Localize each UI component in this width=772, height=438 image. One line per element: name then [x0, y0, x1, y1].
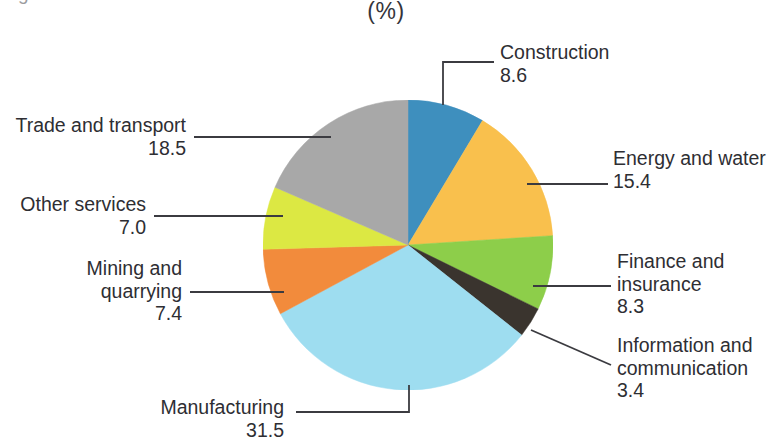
pie-label-trade: Trade and transport 18.5: [15, 114, 186, 159]
pie-label-information-line2: communication: [617, 357, 753, 380]
pie-label-other-services-name: Other services: [20, 193, 146, 215]
pie-label-energy-value: 15.4: [613, 170, 766, 193]
pie-label-energy: Energy and water 15.4: [613, 147, 766, 192]
pie-label-finance-value: 8.3: [617, 295, 724, 318]
pie-label-manufacturing: Manufacturing 31.5: [160, 396, 284, 438]
pie-label-information: Information and communication 3.4: [617, 334, 753, 402]
pie-label-mining-line2: quarrying: [87, 280, 182, 303]
pie-label-construction: Construction 8.6: [500, 41, 609, 86]
pie-label-manufacturing-value: 31.5: [160, 419, 284, 438]
pie-label-finance-line2: insurance: [617, 273, 724, 296]
pie-label-other-services: Other services 7.0: [20, 193, 146, 238]
pie-label-mining-value: 7.4: [87, 302, 182, 325]
pie-label-information-value: 3.4: [617, 379, 753, 402]
pie-label-information-line1: Information and: [617, 334, 753, 356]
pie-label-trade-value: 18.5: [15, 137, 186, 160]
pie-label-mining: Mining and quarrying 7.4: [87, 257, 182, 325]
pie-label-construction-name: Construction: [500, 41, 609, 63]
pie-chart-svg: [263, 100, 553, 390]
pie-label-construction-value: 8.6: [500, 64, 609, 87]
pie-label-trade-name: Trade and transport: [15, 114, 186, 136]
pie-label-mining-line1: Mining and: [87, 257, 182, 279]
pie-chart: [263, 100, 553, 390]
chart-subtitle-percent: (%): [0, 0, 772, 25]
pie-label-manufacturing-name: Manufacturing: [160, 396, 284, 418]
pie-slice-group: [263, 100, 553, 390]
pie-label-finance-line1: Finance and: [617, 250, 724, 272]
pie-label-energy-name: Energy and water: [613, 147, 766, 169]
pie-label-other-services-value: 7.0: [20, 216, 146, 239]
leader-line-construction: [443, 62, 494, 105]
pie-label-finance: Finance and insurance 8.3: [617, 250, 724, 318]
